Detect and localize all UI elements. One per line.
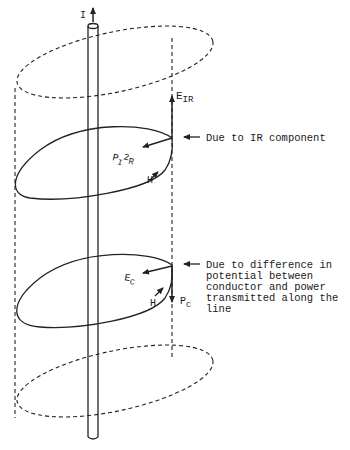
lower-h-arrow — [155, 288, 163, 296]
p-c-label: PC — [180, 296, 191, 309]
e-ir-label: EIR — [176, 90, 194, 105]
upper-h-label: H — [147, 175, 153, 186]
e-c-label: EC — [123, 272, 136, 287]
p-i2r-label: PI2R — [111, 150, 136, 169]
e-c-arrow — [143, 266, 172, 273]
lower-h-loop — [17, 254, 173, 327]
current-label: I — [80, 10, 86, 21]
conductor-field-diagram: I H EIR PI2R Due to IR component H EC PC… — [0, 0, 350, 450]
conductor-rod — [88, 24, 98, 440]
lower-annotation-line-5: line — [206, 303, 231, 315]
cylinder-bottom-ellipse — [11, 331, 219, 431]
lower-h-label: H — [150, 298, 156, 309]
upper-annotation: Due to IR component — [206, 132, 326, 144]
upper-h-loop — [15, 127, 172, 200]
dashed-cylinder — [11, 12, 219, 431]
p-i2r-arrow — [143, 138, 172, 147]
lower-annotation: Due to difference in potential between c… — [206, 259, 338, 315]
